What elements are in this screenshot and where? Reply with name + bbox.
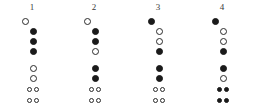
hole-row-hole-4 [126,65,190,74]
hole-hole-5-open-icon [30,75,37,82]
hole-row-hole-1 [0,28,64,37]
column-header-label: 1 [0,2,64,13]
hole-stack [62,18,126,109]
hole-row-hole-7 [62,97,126,106]
hole-row-hole-2 [0,38,64,47]
hole-row-hole-4 [190,65,254,74]
hole-row-hole-6 [126,86,190,95]
hole-row-hole-6 [0,86,64,95]
hole-row-hole-2 [126,38,190,47]
hole-thumb-open-icon [22,18,29,25]
hole-row-hole-1 [126,28,190,37]
hole-hole-3-filled-icon [220,48,227,55]
column-header-label: 2 [62,2,126,13]
hole-hole-3-open-icon [92,48,99,55]
hole-hole-5-filled-icon [92,75,99,82]
fingering-chart: 1234 [0,0,256,109]
hole-hole-2-open-icon [220,38,227,45]
hole-row-hole-7 [190,97,254,106]
fingering-column-3: 3 [126,0,190,109]
hole-hole-7-right-filled-icon [224,98,229,103]
hole-hole-3-filled-icon [156,48,163,55]
hole-hole-5-open-icon [220,75,227,82]
hole-hole-7-left-open-icon [89,98,94,103]
hole-hole-1-open-icon [156,28,163,35]
fingering-column-4: 4 [190,0,254,109]
hole-hole-6-left-open-icon [89,87,94,92]
hole-row-hole-5 [126,75,190,84]
hole-hole-4-open-icon [30,65,37,72]
column-header-label: 3 [126,2,190,13]
hole-hole-1-filled-icon [30,28,37,35]
hole-row-hole-5 [0,75,64,84]
hole-hole-4-filled-icon [156,65,163,72]
hole-row-hole-3 [0,48,64,57]
hole-hole-6-right-open-icon [34,87,39,92]
hole-stack [0,18,64,109]
hole-stack [190,18,254,109]
hole-row-hole-2 [62,38,126,47]
hole-row-thumb [190,18,254,27]
hole-hole-7-right-open-icon [34,98,39,103]
hole-row-thumb [62,18,126,27]
hole-hole-7-right-open-icon [160,98,165,103]
hole-hole-2-open-icon [156,38,163,45]
hole-hole-4-filled-icon [220,65,227,72]
hole-hole-7-left-open-icon [27,98,32,103]
hole-hole-7-left-filled-icon [217,98,222,103]
column-header-label: 4 [190,2,254,13]
hole-row-hole-7 [0,97,64,106]
hole-hole-1-filled-icon [92,28,99,35]
hole-row-hole-5 [62,75,126,84]
hole-hole-6-right-filled-icon [224,87,229,92]
fingering-column-1: 1 [0,0,64,109]
fingering-column-2: 2 [62,0,126,109]
hole-hole-3-filled-icon [30,48,37,55]
hole-hole-2-filled-icon [92,38,99,45]
hole-hole-5-filled-icon [156,75,163,82]
hole-row-hole-3 [62,48,126,57]
hole-stack [126,18,190,109]
hole-hole-6-left-open-icon [27,87,32,92]
hole-row-thumb [0,18,64,27]
hole-hole-6-left-filled-icon [217,87,222,92]
hole-row-hole-2 [190,38,254,47]
hole-row-hole-6 [62,86,126,95]
hole-row-hole-5 [190,75,254,84]
hole-hole-1-open-icon [220,28,227,35]
hole-hole-6-right-open-icon [160,87,165,92]
hole-hole-2-filled-icon [30,38,37,45]
hole-hole-7-right-open-icon [96,98,101,103]
hole-thumb-open-icon [84,18,91,25]
hole-hole-6-right-open-icon [96,87,101,92]
hole-thumb-filled-icon [148,18,155,25]
hole-row-hole-3 [190,48,254,57]
hole-hole-7-left-open-icon [153,98,158,103]
hole-row-hole-4 [62,65,126,74]
hole-hole-4-filled-icon [92,65,99,72]
hole-thumb-filled-icon [212,18,219,25]
hole-row-hole-4 [0,65,64,74]
hole-row-hole-6 [190,86,254,95]
hole-row-thumb [126,18,190,27]
hole-row-hole-3 [126,48,190,57]
hole-hole-6-left-open-icon [153,87,158,92]
hole-row-hole-1 [190,28,254,37]
hole-row-hole-1 [62,28,126,37]
hole-row-hole-7 [126,97,190,106]
